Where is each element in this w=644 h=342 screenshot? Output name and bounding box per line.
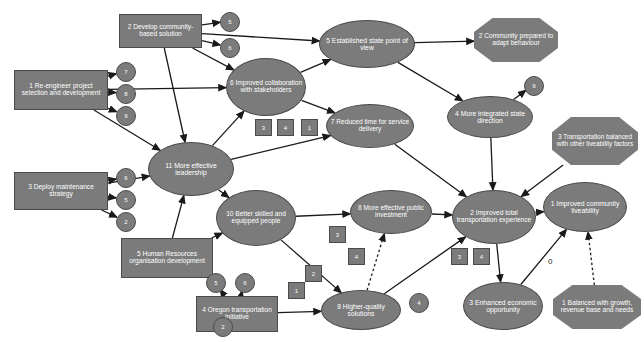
node-2-develop-community-based-solution[interactable]: 2 Develop community-based solution [119,14,202,48]
badge-label: 9 [124,113,127,119]
diagram-canvas: 1 Re-engineer project selection and deve… [0,0,644,342]
badge-circle-7[interactable]: 7 [116,62,136,82]
badge-square-4[interactable]: 4 [473,248,490,265]
node-1-re-engineer-project-selection-and-developm[interactable]: 1 Re-engineer project selection and deve… [14,70,108,110]
badge-label: 6 [228,45,231,51]
node-3-transportation-balanced-with-other-liveabi[interactable]: 3 Transportation balanced with other liv… [552,117,638,165]
node-3-enhanced-economic-opportunity[interactable]: 3 Enhanced economic opportunity [463,282,543,330]
badge-label: 1 [308,125,311,131]
node-label: 2 Develop community-based solution [121,24,200,38]
node-label: 1 Improved community liveability [545,200,625,214]
node-2-community-prepared-to-adapt-behaviour[interactable]: 2 Community prepared to adapt behaviour [474,18,558,62]
edge-n8p-to-n2t [432,214,452,215]
edge-n8h-to-n2t [384,237,465,294]
badge-label: 7 [124,69,127,75]
node-7-reduced-time-for-service-delivery[interactable]: 7 Reduced time for service delivery [326,104,414,148]
edge-n1-to-c_n1_9 [108,108,117,111]
badge-circle-6[interactable]: 6 [235,273,255,293]
node-label: 7 Reduced time for service delivery [328,119,412,133]
node-label: 11 More effective leadership [150,162,232,176]
node-label: 3 Transportation balanced with other liv… [553,134,637,147]
edge-n3-to-c_n3_5 [108,197,116,198]
node-label: 4 Oregon transportation initiative [198,307,276,321]
edge-n2-to-n5e [202,34,319,41]
edge-n5e-to-n2c [415,41,474,43]
edge-n2t-to-n1l [535,212,543,213]
node-4-more-integrated-state-direction[interactable]: 4 More integrated state direction [447,96,533,138]
badge-label: 4 [355,254,358,260]
edge-n11-to-n7 [231,136,330,160]
node-1-improved-community-liveability[interactable]: 1 Improved community liveability [543,182,627,232]
badge-circle-2[interactable]: 2 [116,212,136,232]
edge-n2-to-n11 [164,48,185,142]
badge-label: 2 [124,219,127,225]
badge-circle-9[interactable]: 9 [524,76,544,96]
edge-n3-to-c_n3_2 [102,210,117,217]
edge-n7-to-n2t [395,144,467,197]
node-label: 6 Improved collaboration with stakeholde… [228,80,304,94]
badge-label: 4 [417,300,420,306]
edge-n1b-to-n1l [588,232,594,285]
edge-n2t-to-n3e [497,244,501,282]
node-label: 10 Better skilled and equipped people [218,211,294,225]
edge-n11-to-n10 [219,190,229,198]
badge-label: 6 [243,280,246,286]
node-10-better-skilled-and-equipped-people[interactable]: 10 Better skilled and equipped people [216,190,296,246]
node-1-balanced-with-growth-revenue-base-and-need[interactable]: 1 Balanced with growth, revenue base and… [553,285,641,329]
badge-circle-5[interactable]: 5 [220,12,240,32]
badge-label: 5 [214,280,217,286]
badge-square-2[interactable]: 2 [305,265,322,282]
badge-square-1[interactable]: 1 [301,119,318,136]
node-8-more-effective-public-investment[interactable]: 8 More effective public investment [350,190,432,234]
badge-square-4[interactable]: 4 [277,119,294,136]
node-5-human-resources-organisation-development[interactable]: 5 Human Resources organisation developme… [121,238,213,278]
node-label: 1 Balanced with growth, revenue base and… [554,300,640,314]
badge-label: 3 [336,232,339,238]
badge-square-3[interactable]: 3 [451,248,468,265]
badge-circle-6[interactable]: 6 [116,168,136,188]
badge-square-3[interactable]: 3 [255,119,272,136]
badge-circle-4[interactable]: 4 [409,293,429,313]
node-8-higher-quality-solutions[interactable]: 8 Higher-quality solutions [321,290,401,330]
badge-label: 5 [124,197,127,203]
edge-n11-to-n6 [212,111,243,145]
edge-n1-to-c_n1_7 [108,74,116,76]
edge-n8h-to-n8p [367,234,384,291]
badge-circle-5[interactable]: 5 [116,190,136,210]
node-label: 5 Established state point of view [321,37,413,51]
node-label: 8 More effective public investment [352,205,430,219]
node-6-improved-collaboration-with-stakeholders[interactable]: 6 Improved collaboration with stakeholde… [226,58,306,116]
badge-circle-6[interactable]: 6 [220,38,240,58]
edge-n5h-to-n10 [212,233,223,238]
badge-label: 3 [262,125,265,131]
badge-circle-9[interactable]: 9 [116,106,136,126]
badge-square-4[interactable]: 4 [348,248,365,265]
node-label: 3 Enhanced economic opportunity [465,299,541,313]
node-5-established-state-point-of-view[interactable]: 5 Established state point of view [319,20,415,68]
edge-n5h-to-n11 [172,196,183,238]
badge-circle-5[interactable]: 5 [206,273,226,293]
badge-label: 2 [312,271,315,277]
badge-square-1[interactable]: 1 [288,282,305,299]
node-2-improved-total-transportation-experience[interactable]: 2 Improved total transportation experien… [452,190,536,244]
edge-n5e-to-n4i [398,62,463,100]
edge-n4o-to-n8h [278,311,321,312]
badge-label: 3 [458,254,461,260]
edge-n4i-to-c_n4i_9 [514,90,526,99]
node-3-deploy-maintenance-strategy[interactable]: 3 Deploy maintenance strategy [14,172,108,210]
node-11-more-effective-leadership[interactable]: 11 More effective leadership [148,142,234,196]
edge-n2-to-c_n2_a [202,22,220,25]
badge-label: 4 [284,125,287,131]
node-label: 8 Higher-quality solutions [323,303,399,317]
badge-label: 4 [480,254,483,260]
badge-label: 6 [124,175,127,181]
edge-n6-to-n5e [300,60,330,73]
badge-circle-8[interactable]: 8 [116,84,136,104]
edge-label-lbl0: 0 [548,257,552,266]
badge-circle-2[interactable]: 2 [213,317,233,337]
badge-label: 8 [124,91,127,97]
node-4-oregon-transportation-initiative[interactable]: 4 Oregon transportation initiative [196,296,278,332]
badge-square-3[interactable]: 3 [329,226,346,243]
badge-label: 9 [532,83,535,89]
badge-label: 5 [228,19,231,25]
